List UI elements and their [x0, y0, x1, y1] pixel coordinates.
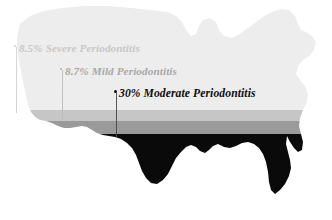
band-moderate: [0, 121, 332, 134]
band-base: [0, 134, 332, 220]
band-mild: [0, 110, 332, 121]
annotation-mild: 8.7% Mild Periodontitis: [65, 65, 177, 77]
annotation-moderate-label: Moderate Periodontitis: [144, 87, 256, 100]
leader-line-severe: [16, 47, 17, 113]
leader-line-mild: [62, 70, 63, 120]
annotation-moderate-percent: 30%: [119, 87, 141, 100]
map-bands: [0, 0, 332, 220]
periodontitis-map-infographic: 8.5% Severe Periodontitis 8.7% Mild Peri…: [0, 0, 332, 220]
annotation-mild-percent: 8.7%: [65, 65, 89, 77]
annotation-severe: 8.5% Severe Periodontitis: [19, 42, 140, 54]
us-map-graphic: [0, 0, 332, 220]
annotation-severe-percent: 8.5%: [19, 42, 43, 54]
annotation-mild-label: Mild Periodontitis: [92, 65, 177, 77]
annotation-moderate: 30% Moderate Periodontitis: [119, 87, 256, 100]
annotation-severe-label: Severe Periodontitis: [46, 42, 140, 54]
leader-line-moderate: [116, 92, 117, 137]
